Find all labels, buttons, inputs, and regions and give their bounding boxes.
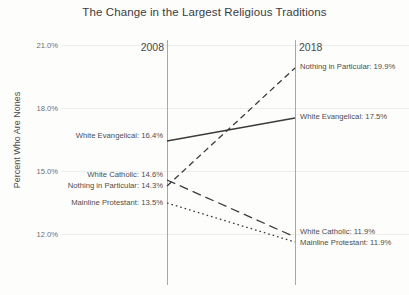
end-label-nothing-in-particular: Nothing in Particular: 19.9% — [300, 62, 395, 71]
end-label-white-catholic: White Catholic: 11.9% — [300, 227, 375, 236]
series-line-white-evangelical — [167, 118, 295, 141]
start-label-mainline-protestant: Mainline Protestant: 13.5% — [35, 198, 163, 207]
end-label-white-evangelical: White Evangelical: 17.5% — [300, 112, 387, 121]
start-label-white-evangelical: White Evangelical: 16.4% — [45, 131, 163, 140]
start-label-white-catholic: White Catholic: 14.6% — [45, 170, 163, 179]
chart-lines — [0, 0, 409, 295]
start-label-nothing-in-particular: Nothing in Particular: 14.3% — [35, 181, 163, 190]
end-label-mainline-protestant: Mainline Protestant: 11.9% — [300, 238, 391, 247]
slope-chart: The Change in the Largest Religious Trad… — [0, 0, 409, 295]
series-line-nothing-in-particular — [167, 68, 295, 186]
